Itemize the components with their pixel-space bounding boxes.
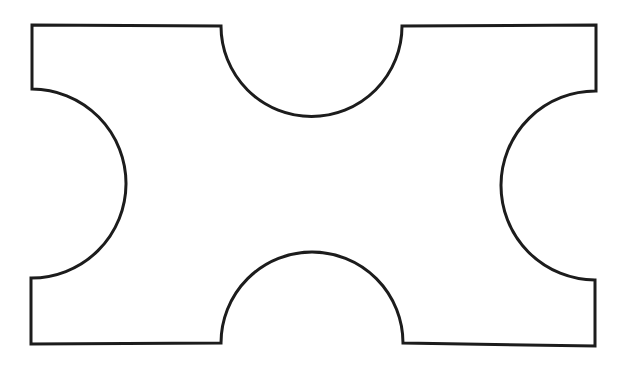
shape-figure	[0, 0, 631, 370]
drawing-canvas	[0, 0, 631, 370]
